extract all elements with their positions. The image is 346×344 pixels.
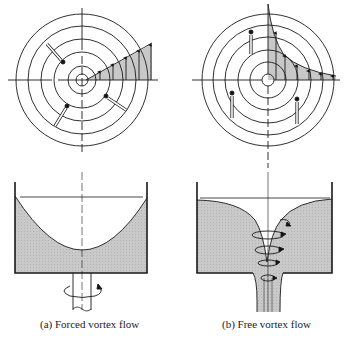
free-vortex-plan xyxy=(192,4,340,168)
float-stick-top xyxy=(249,30,253,54)
caption-forced-vortex: (a) Forced vortex flow xyxy=(40,318,139,330)
float-stick-lower-right xyxy=(104,94,126,110)
forced-vortex-plan xyxy=(8,8,158,155)
vortex-diagram xyxy=(0,0,346,344)
float-stick-lower-left xyxy=(55,104,69,126)
float-stick-left xyxy=(230,91,234,118)
forced-vortex-tank xyxy=(15,172,147,311)
float-stick-upper-left xyxy=(47,44,65,64)
float-stick-right xyxy=(295,97,299,124)
caption-free-vortex: (b) Free vortex flow xyxy=(222,318,311,330)
free-vortex-tank xyxy=(197,172,332,312)
